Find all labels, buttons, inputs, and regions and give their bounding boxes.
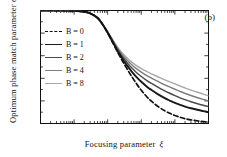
legend: B = 0B = 1B = 2B = 4B = 8 — [45, 26, 84, 89]
legend-label: B = 2 — [66, 53, 84, 62]
legend-item: B = 0 — [45, 26, 84, 36]
legend-item: B = 2 — [45, 52, 84, 62]
legend-label: B = 1 — [66, 40, 84, 49]
x-axis-symbol: ξ — [156, 139, 164, 149]
x-axis-label: Focusing parameterξ — [40, 139, 208, 149]
legend-item: B = 8 — [45, 79, 84, 89]
x-axis-label-text: Focusing parameter — [85, 139, 156, 149]
legend-label: B = 4 — [66, 66, 84, 75]
legend-line-swatch — [45, 44, 62, 45]
legend-label: B = 0 — [66, 27, 84, 36]
legend-line-swatch — [45, 31, 62, 32]
legend-line-swatch — [45, 83, 62, 84]
panel-label: (b) — [205, 12, 216, 22]
legend-label: B = 8 — [66, 79, 84, 88]
plot-canvas — [0, 0, 227, 157]
y-axis-label-text: Optimum phase match parameter — [8, 4, 18, 123]
y-axis-label: Optimum phase match parameter σm — [8, 0, 20, 124]
figure-panel-b: Optimum phase match parameter σm Focusin… — [0, 0, 227, 157]
legend-line-swatch — [45, 70, 62, 71]
legend-item: B = 1 — [45, 39, 84, 49]
legend-line-swatch — [45, 57, 62, 58]
legend-item: B = 4 — [45, 66, 84, 76]
y-axis-symbol: σ — [8, 0, 18, 2]
